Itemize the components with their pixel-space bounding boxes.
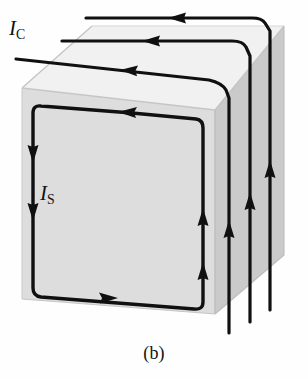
label-surface-current: IS	[40, 183, 55, 207]
loop-1-arrow-top	[168, 13, 186, 24]
figure-container: IC IS (b)	[0, 0, 308, 379]
label-ic-symbol: I	[9, 16, 16, 40]
block-solid	[22, 26, 284, 314]
label-is-symbol: I	[40, 181, 47, 205]
label-conduction-current: IC	[9, 18, 25, 42]
label-ic-subscript: C	[16, 27, 25, 42]
label-is-subscript: S	[47, 192, 55, 207]
figure-caption: (b)	[0, 344, 308, 362]
